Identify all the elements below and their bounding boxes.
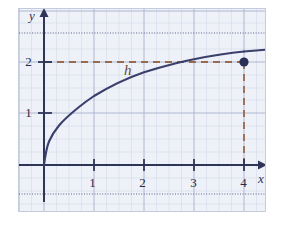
- x-axis-arrowhead: [258, 161, 267, 170]
- y-axis-label: y: [29, 8, 35, 24]
- x-tick-label-3: 3: [187, 175, 200, 191]
- x-axis-label: x: [258, 171, 264, 187]
- function-curve-h-extension: [244, 50, 266, 52]
- y-tick-label-1: 1: [22, 105, 35, 121]
- function-curve-h: [44, 52, 244, 166]
- x-tick-label-2: 2: [136, 175, 149, 191]
- x-tick-label-1: 1: [86, 175, 99, 191]
- graph-figure: y x 2 1 1 2 3 4 h: [0, 0, 283, 230]
- x-tick-label-4: 4: [237, 175, 250, 191]
- y-tick-label-2: 2: [22, 54, 35, 70]
- curve-layer: [0, 0, 283, 230]
- marked-point-4-2: [239, 57, 248, 66]
- curve-name-label: h: [124, 62, 132, 79]
- y-axis-arrowhead: [40, 8, 49, 17]
